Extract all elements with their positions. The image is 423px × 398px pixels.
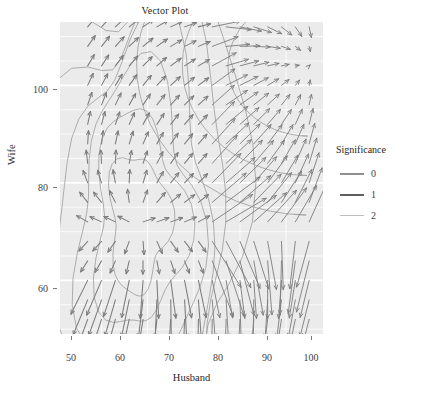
- y-tick-label-80: 80: [18, 182, 48, 193]
- legend-label-0: 0: [371, 168, 376, 179]
- vector-field-canvas: [60, 22, 323, 334]
- x-tickmark-100: [311, 336, 312, 340]
- y-tickmark-60: [53, 288, 57, 289]
- x-tickmark-60: [120, 336, 121, 340]
- legend: Significance 0 1 2: [336, 144, 422, 226]
- legend-item-0[interactable]: 0: [336, 163, 422, 184]
- x-tick-label-60: 60: [105, 352, 135, 363]
- legend-line-icon-0: [340, 168, 364, 179]
- x-axis-title: Husband: [60, 372, 323, 383]
- plot-panel: [60, 22, 323, 334]
- legend-title: Significance: [336, 144, 422, 155]
- page-title: Vector Plot: [0, 5, 330, 16]
- legend-item-1[interactable]: 1: [336, 184, 422, 205]
- x-tick-label-70: 70: [154, 352, 184, 363]
- x-tick-label-90: 90: [252, 352, 282, 363]
- x-tick-label-100: 100: [296, 352, 326, 363]
- legend-item-2[interactable]: 2: [336, 205, 422, 226]
- legend-line-icon-1: [340, 189, 364, 200]
- x-tickmark-50: [71, 336, 72, 340]
- legend-label-2: 2: [371, 210, 376, 221]
- y-axis-title: Wife: [6, 144, 17, 165]
- y-tickmark-100: [53, 89, 57, 90]
- x-tickmark-80: [218, 336, 219, 340]
- x-tickmark-90: [267, 336, 268, 340]
- x-tickmark-70: [169, 336, 170, 340]
- y-tick-label-60: 60: [18, 283, 48, 294]
- vector-plot-figure: Vector Plot Wife Husband 100 80 60 50 60…: [0, 0, 423, 398]
- legend-label-1: 1: [371, 189, 376, 200]
- y-tickmark-80: [53, 187, 57, 188]
- legend-line-icon-2: [340, 210, 364, 221]
- y-tick-label-100: 100: [18, 84, 48, 95]
- x-tick-label-50: 50: [56, 352, 86, 363]
- x-tick-label-80: 80: [203, 352, 233, 363]
